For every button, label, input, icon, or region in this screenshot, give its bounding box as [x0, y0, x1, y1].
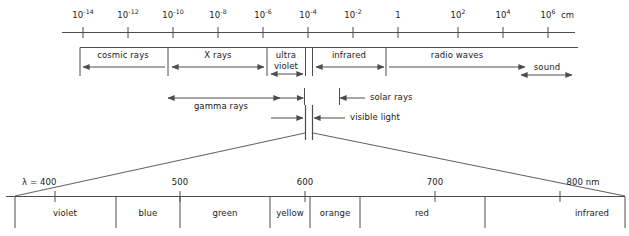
- axis-tick-label-10e2: 102: [450, 11, 465, 21]
- axis-tick-label-10e4: 104: [495, 11, 510, 21]
- axis-tick-label-10e-8: 10-8: [209, 11, 226, 21]
- axis-tick-label-10e6: 106: [540, 11, 555, 21]
- band-label-cosmic-rays: cosmic rays: [97, 51, 149, 61]
- band-label-sound: sound: [534, 63, 560, 73]
- band-label-radio-waves: radio waves: [431, 51, 483, 61]
- projection-fan-lines: [15, 133, 625, 196]
- axis-tick-label-10e-4: 10-4: [299, 11, 316, 21]
- bottom-axis-label-800-nm: 800 nm: [566, 178, 599, 188]
- callout-label-solar-rays: solar rays: [370, 93, 413, 103]
- band-label-ultra-violet-line2: violet: [274, 61, 298, 72]
- band-label-infrared: infrared: [332, 51, 366, 61]
- bottom-axis-label-500: 500: [172, 178, 189, 188]
- bottom-axis-label-700: 700: [427, 178, 444, 188]
- color-band-label-red: red: [415, 209, 429, 219]
- color-band-label-blue: blue: [139, 209, 158, 219]
- color-band-label-yellow: yellow: [276, 209, 304, 219]
- callout-label-gamma-rays: gamma rays: [194, 102, 248, 112]
- axis-tick-label-10e-6: 10-6: [254, 11, 271, 21]
- diagram-vector-layer: [0, 0, 629, 236]
- band-label-ultra-violet-line1: ultra: [274, 50, 298, 61]
- axis-tick-label-10e-2: 10-2: [344, 11, 361, 21]
- electromagnetic-spectrum-diagram: 10-14 10-12 10-10 10-8 10-6 10-4 10-2 1 …: [0, 0, 629, 236]
- color-band-label-green: green: [212, 209, 237, 219]
- axis-tick-label-10e-12: 10-12: [117, 11, 138, 21]
- visible-light-band-bars: [306, 105, 313, 140]
- axis-tick-label-10e-10: 10-10: [162, 11, 183, 21]
- bottom-axis-label-lambda-400: λ = 400: [22, 178, 56, 188]
- callout-arrow-solar-rays: [277, 88, 365, 105]
- axis-tick-label-1: 1: [395, 11, 401, 21]
- color-band-label-violet: violet: [53, 209, 77, 219]
- color-band-label-orange: orange: [320, 209, 351, 219]
- axis-tick-label-10e-14: 10-14: [72, 11, 93, 21]
- band-label-x-rays: X rays: [204, 51, 231, 61]
- axis-unit-label-cm: cm: [561, 11, 574, 21]
- callout-label-visible-light: visible light: [350, 113, 400, 123]
- bottom-axis-label-600: 600: [297, 178, 314, 188]
- band-label-ultra-violet: ultra violet: [274, 50, 298, 71]
- color-band-label-infrared: infrared: [575, 209, 609, 219]
